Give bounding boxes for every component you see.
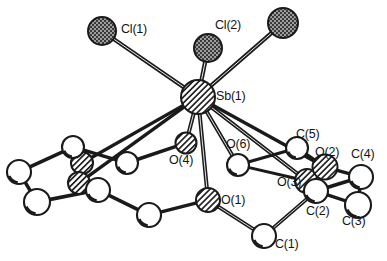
atom-sphere-cl — [194, 34, 222, 62]
atom-label-c3: C(3) — [342, 215, 366, 228]
atom-sphere-c — [304, 179, 328, 203]
atom-cx5 — [137, 203, 161, 227]
atom-label-c2: C(2) — [306, 205, 330, 218]
atom-cl3 — [268, 8, 298, 38]
atom-cl1 — [88, 17, 116, 45]
atom-sphere-c — [116, 152, 138, 174]
atom-cx1 — [62, 136, 84, 158]
atom-sb1 — [181, 80, 215, 114]
bond-cx4-cx5 — [104, 193, 143, 212]
atom-sphere-cl — [88, 17, 116, 45]
atom-sphere-sb — [181, 80, 215, 114]
atom-sphere-o — [196, 188, 220, 212]
atom-label-cl2: Cl(2) — [215, 19, 241, 32]
atom-label-c4: C(4) — [351, 148, 375, 161]
atom-sphere-o — [227, 154, 249, 176]
bond-cx5-o1 — [155, 202, 201, 214]
atom-sphere-o — [176, 133, 197, 154]
bond-sb1-o5 — [87, 102, 190, 160]
atom-label-c5: C(5) — [296, 128, 320, 141]
bond-cx1-cx2 — [25, 150, 68, 170]
atom-label-o1: O(1) — [221, 194, 245, 207]
atom-label-o6: O(6) — [226, 138, 250, 151]
molecular-structure-figure: Cl(1)Cl(2)Sb(1)O(4)O(6)O(1)O(3)O(2)C(1)C… — [0, 0, 387, 261]
atom-o4 — [176, 133, 197, 154]
atom-cl — [116, 152, 138, 174]
bond-highlight — [269, 195, 311, 231]
atom-label-cl1: Cl(1) — [121, 23, 147, 36]
bond-highlight — [214, 204, 259, 233]
atom-label-c1: C(1) — [275, 238, 299, 251]
atom-sphere-c — [86, 178, 110, 202]
atom-c2 — [304, 179, 328, 203]
atom-cx4 — [86, 178, 110, 202]
atom-sphere-c — [24, 189, 50, 215]
ortep-drawing-canvas — [0, 0, 387, 261]
bond-highlight — [199, 106, 207, 193]
atom-c4 — [349, 165, 373, 189]
atom-label-o2: O(2) — [315, 146, 339, 159]
atom-o1 — [196, 188, 220, 212]
atom-cx2 — [7, 160, 31, 184]
atom-label-o3: O(3) — [277, 176, 301, 189]
atom-o6 — [227, 154, 249, 176]
atom-cl2 — [194, 34, 222, 62]
bond-highlight — [205, 103, 301, 177]
atom-sphere-c — [7, 160, 31, 184]
atom-sphere-c — [137, 203, 161, 227]
bond-highlight — [108, 35, 190, 91]
atom-label-sb1: Sb(1) — [216, 90, 246, 103]
atom-sphere-c — [349, 165, 373, 189]
atom-label-o4: O(4) — [169, 154, 193, 167]
atom-sphere-cl — [268, 8, 298, 38]
atom-sphere-c — [252, 224, 276, 248]
atom-sphere-c — [62, 136, 84, 158]
atom-cx3 — [24, 189, 50, 215]
atom-c1 — [252, 224, 276, 248]
